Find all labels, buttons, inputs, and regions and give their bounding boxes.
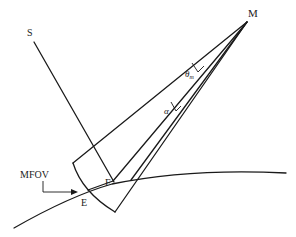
label-theta-subscript: m xyxy=(189,74,194,80)
label-theta: θm xyxy=(185,69,194,80)
cone-outer-left-edge xyxy=(73,22,247,163)
mfov-arrow-head-icon xyxy=(71,189,78,195)
label-f: F xyxy=(105,177,111,188)
earth-surface-curve xyxy=(14,172,286,228)
cone-outer-right-edge xyxy=(115,22,247,212)
mfov-arrow-line xyxy=(43,181,74,192)
label-mfov: MFOV xyxy=(20,169,50,180)
label-m: M xyxy=(248,7,258,19)
label-alpha: α xyxy=(164,106,169,116)
beam-inner-left-line xyxy=(113,22,247,181)
label-s: S xyxy=(27,27,33,38)
sun-ray-line xyxy=(34,42,114,182)
beam-inner-right-line xyxy=(131,22,247,180)
fov-geometry-diagram: M S E F MFOV θm α xyxy=(0,0,296,237)
label-e: E xyxy=(81,197,87,208)
